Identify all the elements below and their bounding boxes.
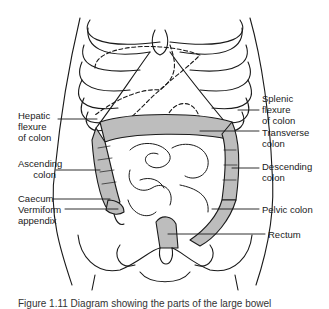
label-pelvic-colon: Pelvic colon bbox=[262, 204, 313, 215]
transverse-colon bbox=[100, 115, 232, 143]
label-ascending-colon: Ascending colon bbox=[18, 158, 56, 180]
label-rectum: Rectum bbox=[268, 229, 301, 240]
label-splenic-flexure: Splenic flexure of colon bbox=[262, 93, 295, 126]
label-vermiform-appendix: Vermiform appendix bbox=[18, 204, 61, 226]
figure-caption: Figure 1.11 Diagram showing the parts of… bbox=[18, 298, 271, 309]
descending-colon bbox=[222, 122, 239, 200]
label-descending-colon: Descending colon bbox=[262, 161, 312, 183]
rectum bbox=[156, 217, 178, 248]
rib-cage-left bbox=[79, 20, 160, 131]
colon bbox=[92, 115, 239, 249]
rib-cage-right bbox=[170, 20, 251, 131]
torso-outline bbox=[53, 18, 80, 285]
label-hepatic-flexure: Hepatic flexure of colon bbox=[18, 110, 51, 143]
small-intestine bbox=[128, 143, 208, 215]
caecum bbox=[106, 200, 124, 214]
stomach-outline bbox=[130, 45, 174, 118]
label-caecum: Caecum bbox=[18, 193, 53, 204]
vermiform-appendix bbox=[114, 214, 124, 225]
pelvic-colon bbox=[190, 200, 236, 246]
label-transverse-colon: Transverse colon bbox=[262, 127, 309, 149]
liver-outline bbox=[95, 46, 200, 115]
